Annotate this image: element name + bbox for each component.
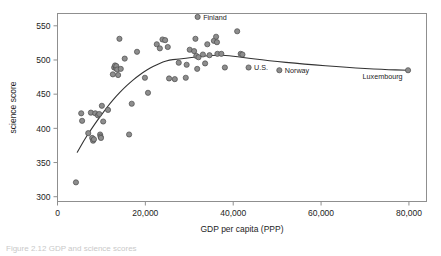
x-tick-label: 60,000 [308,208,334,218]
data-point[interactable] [193,36,198,41]
x-tick-label: 80,000 [396,208,422,218]
data-point[interactable] [207,53,212,58]
data-point[interactable] [240,52,245,57]
data-point[interactable] [183,75,188,80]
data-point[interactable] [98,135,103,140]
data-point[interactable] [200,52,205,57]
data-point[interactable] [157,46,162,51]
data-point[interactable] [277,68,282,73]
y-axis-title: science score [8,81,18,133]
y-tick-label: 350 [36,158,50,168]
data-point[interactable] [405,68,410,73]
figure-caption: Figure 2.12 GDP and science scores [6,243,436,254]
data-point[interactable] [219,51,224,56]
data-point[interactable] [145,90,150,95]
data-point[interactable] [80,118,85,123]
data-point[interactable] [127,132,132,137]
data-point[interactable] [246,65,251,70]
data-point[interactable] [117,36,122,41]
x-tick-label: 40,000 [220,208,246,218]
x-tick-label: 0 [55,208,60,218]
data-point[interactable] [73,180,78,185]
data-point[interactable] [176,60,181,65]
data-point[interactable] [91,137,96,142]
data-point[interactable] [129,101,134,106]
data-point[interactable] [213,34,218,39]
data-point[interactable] [101,119,106,124]
data-point[interactable] [172,77,177,82]
data-point[interactable] [184,62,189,67]
y-tick-label: 450 [36,89,50,99]
chart-canvas: 020,00040,00060,00080,000300350400450500… [0,0,441,256]
y-tick-label: 550 [36,21,50,31]
data-point[interactable] [195,14,200,19]
scatter-plot-figure: 020,00040,00060,00080,000300350400450500… [0,0,441,256]
data-point[interactable] [97,111,102,116]
data-point[interactable] [222,65,227,70]
data-point[interactable] [165,44,170,49]
annotation-label-finland: Finland [203,13,227,22]
data-point[interactable] [192,49,197,54]
y-tick-label: 300 [36,192,50,202]
data-point[interactable] [79,111,84,116]
data-point[interactable] [142,75,147,80]
data-point[interactable] [134,49,139,54]
annotation-label-norway: Norway [285,66,310,75]
x-axis-title: GDP per capita (PPP) [201,224,284,234]
data-point[interactable] [205,42,210,47]
annotation-label-us: U.S. [254,63,268,72]
plot-frame [58,14,427,202]
data-point[interactable] [195,66,200,71]
data-point[interactable] [235,29,240,34]
data-point[interactable] [203,61,208,66]
y-tick-label: 400 [36,124,50,134]
data-point[interactable] [163,38,168,43]
data-point[interactable] [110,72,115,77]
data-point[interactable] [118,66,123,71]
data-point[interactable] [214,40,219,45]
data-point[interactable] [116,72,121,77]
annotation-label-luxembourg: Luxembourg [363,72,403,81]
x-tick-label: 20,000 [132,208,158,218]
data-point[interactable] [99,103,104,108]
data-point[interactable] [86,131,91,136]
data-point[interactable] [105,107,110,112]
data-point[interactable] [166,76,171,81]
y-tick-label: 500 [36,55,50,65]
data-point[interactable] [122,56,127,61]
